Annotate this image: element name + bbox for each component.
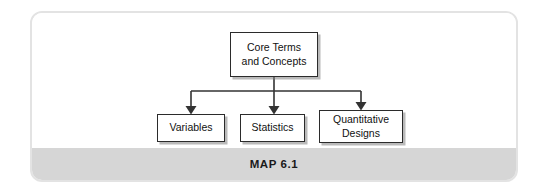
figure-root: Core Terms and Concepts Variables Statis…: [0, 0, 547, 193]
node-core-terms-and-concepts: Core Terms and Concepts: [230, 32, 318, 77]
node-variables: Variables: [157, 114, 225, 142]
node-quantitative-designs: Quantitative Designs: [319, 110, 403, 143]
node-label: Statistics: [251, 121, 293, 134]
node-label: Variables: [170, 121, 213, 134]
figure-caption: MAP 6.1: [250, 158, 299, 170]
node-label: Core Terms and Concepts: [242, 41, 307, 67]
diagram-canvas: Core Terms and Concepts Variables Statis…: [32, 13, 516, 152]
node-statistics: Statistics: [240, 114, 305, 142]
caption-band: MAP 6.1: [32, 148, 516, 180]
node-label: Quantitative Designs: [333, 113, 389, 139]
figure-frame: Core Terms and Concepts Variables Statis…: [30, 11, 518, 182]
